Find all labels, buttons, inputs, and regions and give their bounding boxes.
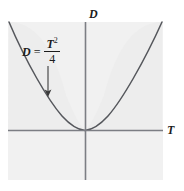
- t-axis-label: T: [167, 124, 174, 136]
- equation-left-side: D: [22, 46, 31, 58]
- equation-denominator: 4: [47, 52, 57, 65]
- equation-numerator-base: T: [46, 37, 53, 51]
- parabola-figure: D T D = T2 4: [0, 0, 184, 191]
- figure-canvas: [0, 0, 184, 191]
- equation-equals-sign: =: [34, 46, 41, 58]
- d-axis-label: D: [89, 8, 98, 20]
- equation-fraction: T2 4: [44, 38, 59, 65]
- equation-numerator: T2: [44, 38, 59, 51]
- equation-numerator-exponent: 2: [54, 36, 58, 45]
- curve-equation-annotation: D = T2 4: [22, 38, 60, 65]
